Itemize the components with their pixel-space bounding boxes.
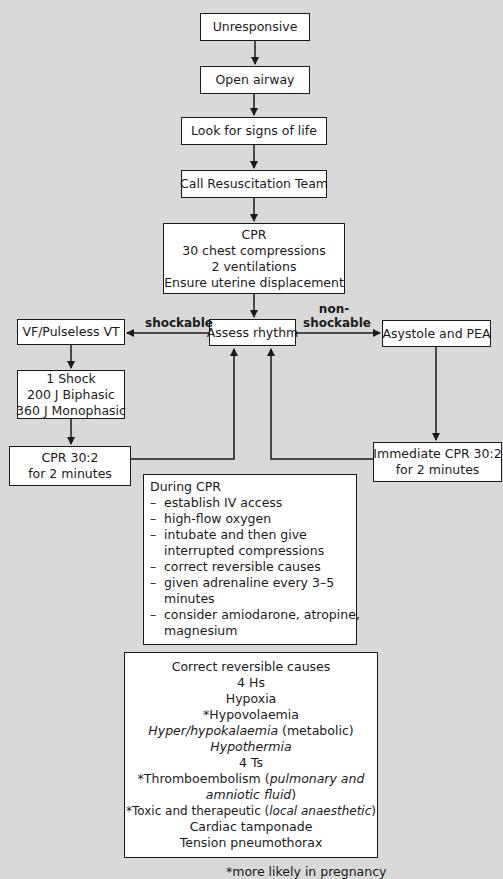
reversible-causes-title: Correct reversible causes [172,659,331,675]
dash-bullet: – [150,575,164,607]
node-look-for-signs-of-life: Look for signs of life [181,117,327,145]
cause-toxic: *Toxic and therapeutic (local anaestheti… [126,803,376,819]
cause-hypothermia: Hypothermia [210,739,291,755]
list-item-text: consider amiodarone, atropine,magnesium [164,607,360,639]
node-immediate-cpr-30-2: Immediate CPR 30:2 for 2 minutes [373,442,502,482]
cause-hypoxia: Hypoxia [226,691,277,707]
edge-label-non-shockable: non- shockable [303,302,365,330]
list-item-text: intubate and then giveinterrupted compre… [164,527,324,559]
list-item-text: given adrenaline every 3–5minutes [164,575,334,607]
node-label: Unresponsive [213,19,298,35]
node-unresponsive: Unresponsive [200,13,310,41]
node-label: for 2 minutes [396,462,480,478]
cause-tamponade: Cardiac tamponade [190,819,313,835]
node-label: 360 J Monophasic [16,403,126,419]
edge-label-text: shockable [303,316,365,330]
dash-bullet: – [150,607,164,639]
cause-thromboembolism-cont: amniotic fluid) [206,787,296,803]
node-label: CPR [242,227,267,243]
during-cpr-title: During CPR [150,479,221,495]
node-cpr-30-2-left: CPR 30:2 for 2 minutes [9,446,131,486]
dash-bullet: – [150,495,164,511]
node-label: Look for signs of life [191,123,317,139]
edge-label-text: shockable [145,316,213,330]
node-label: VF/Pulseless VT [22,324,119,340]
list-item: – high-flow oxygen [150,511,271,527]
cause-hypovolaemia: *Hypovolaemia [203,707,299,723]
dash-bullet: – [150,527,164,559]
node-call-resuscitation-team: Call Resuscitation Team [181,170,327,198]
node-label: Ensure uterine displacement [164,275,344,291]
node-label: Assess rhythm [207,325,299,341]
list-item: – consider amiodarone, atropine,magnesiu… [150,607,360,639]
list-item: – correct reversible causes [150,559,321,575]
cause-pneumothorax: Tension pneumothorax [180,835,323,851]
node-label: Asystole and PEA [382,326,490,342]
footnote: *more likely in pregnancy [226,864,386,879]
node-asystole-pea: Asystole and PEA [382,320,491,347]
list-item-text: high-flow oxygen [164,511,271,527]
node-assess-rhythm: Assess rhythm [209,319,296,346]
node-shock: 1 Shock 200 J Biphasic 360 J Monophasic [17,370,125,419]
node-label: for 2 minutes [28,466,112,482]
edge-label-text: non- [303,302,365,316]
node-label: Call Resuscitation Team [180,176,328,192]
hs-heading: 4 Hs [237,675,265,691]
node-label: 200 J Biphasic [27,387,115,403]
list-item: – intubate and then giveinterrupted comp… [150,527,324,559]
edge-label-shockable: shockable [145,316,203,330]
dash-bullet: – [150,511,164,527]
list-item: – establish IV access [150,495,282,511]
cause-thromboembolism: *Thromboembolism (pulmonary and [138,771,365,787]
reversible-causes-box: Correct reversible causes 4 Hs Hypoxia *… [124,652,378,858]
ts-heading: 4 Ts [239,755,263,771]
list-item-text: establish IV access [164,495,282,511]
list-item: – given adrenaline every 3–5minutes [150,575,334,607]
list-item-text: correct reversible causes [164,559,321,575]
node-label: Open airway [216,72,295,88]
dash-bullet: – [150,559,164,575]
cause-hyperkalaemia: Hyper/hypokalaemia (metabolic) [148,723,353,739]
node-label: CPR 30:2 [42,450,99,466]
node-label: 30 chest compressions [182,243,326,259]
node-vf-pulseless-vt: VF/Pulseless VT [17,319,125,345]
during-cpr-box: During CPR – establish IV access – high-… [143,474,357,645]
node-open-airway: Open airway [200,66,310,94]
node-label: 2 ventilations [212,259,297,275]
node-label: Immediate CPR 30:2 [373,446,501,462]
node-label: 1 Shock [46,371,96,387]
node-cpr: CPR 30 chest compressions 2 ventilations… [163,223,345,294]
